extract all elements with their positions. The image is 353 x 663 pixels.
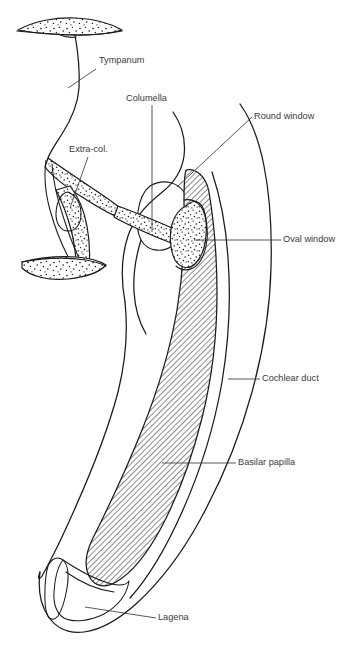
label-cochlear-duct: Cochlear duct [262, 373, 319, 383]
label-basilar-papilla: Basilar papilla [238, 457, 296, 467]
label-round-window: Round window [254, 111, 315, 121]
label-tympanum: Tympanum [99, 55, 145, 65]
ear-figure-canvas: Tympanum Columella Round window Extra-co… [0, 0, 353, 663]
label-oval-window: Oval window [283, 234, 335, 244]
label-columella: Columella [126, 93, 168, 103]
label-lagena: Lagena [158, 612, 190, 622]
label-extra-col: Extra-col. [69, 144, 108, 154]
ear-anatomy-diagram: Tympanum Columella Round window Extra-co… [0, 0, 353, 663]
